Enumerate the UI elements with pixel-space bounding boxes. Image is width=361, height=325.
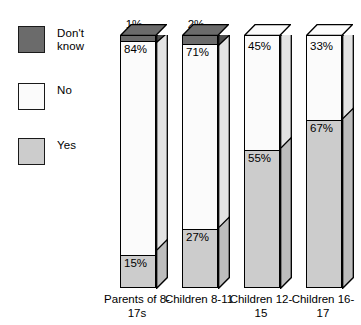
bar-label-yes-3: 67% xyxy=(310,122,333,134)
bar-front-face-1 xyxy=(182,35,218,288)
bar-divider-1 xyxy=(183,229,217,230)
bar-segment-dont-know-0 xyxy=(120,35,156,42)
bar-segment-dont-know-1 xyxy=(182,35,218,45)
bar-group-children-12-15[interactable]: 45% 55% xyxy=(244,35,280,288)
bar-label-no-1: 71% xyxy=(186,46,209,58)
bar-label-yes-2: 55% xyxy=(248,152,271,164)
plot-area: 1% xyxy=(0,0,361,325)
bar-divider-0 xyxy=(121,255,155,256)
bar-label-no-2: 45% xyxy=(248,40,271,52)
bar-cap-side-face-1 xyxy=(218,35,229,56)
bar-group-parents-of-8-17s[interactable]: 84% 15% xyxy=(120,35,156,288)
bar-segment-no-0 xyxy=(121,42,155,255)
bar-divider-3 xyxy=(307,120,341,121)
bar-segment-yes-3 xyxy=(307,120,341,288)
bar-label-yes-1: 27% xyxy=(186,231,209,243)
category-label-3: Children 16-17 xyxy=(286,293,360,320)
bar-segment-yes-2 xyxy=(245,150,279,288)
bar-side-face-3 xyxy=(342,35,353,288)
bar-side-face-1 xyxy=(218,35,229,288)
bar-top-face-1 xyxy=(182,24,229,35)
bar-divider-2 xyxy=(245,150,279,151)
bar-top-face-3 xyxy=(306,24,353,35)
bar-label-yes-0: 15% xyxy=(124,257,147,269)
bar-front-face-0 xyxy=(120,35,156,288)
bar-label-no-3: 33% xyxy=(310,40,333,52)
bar-segment-no-2 xyxy=(245,36,279,150)
bar-side-face-0 xyxy=(156,35,167,288)
bar-group-children-16-17[interactable]: 33% 67% xyxy=(306,35,342,288)
bar-cap-side-face-0 xyxy=(156,35,167,53)
stacked-bar-chart: Don't know No Yes 1% xyxy=(0,0,361,325)
bar-group-children-8-11[interactable]: 71% 27% xyxy=(182,35,218,288)
bar-label-no-0: 84% xyxy=(124,43,147,55)
bar-top-face-0 xyxy=(120,24,167,35)
bar-top-face-2 xyxy=(244,24,291,35)
bar-segment-no-1 xyxy=(183,45,217,229)
bar-front-face-3 xyxy=(306,35,342,288)
bar-side-face-2 xyxy=(280,35,291,288)
